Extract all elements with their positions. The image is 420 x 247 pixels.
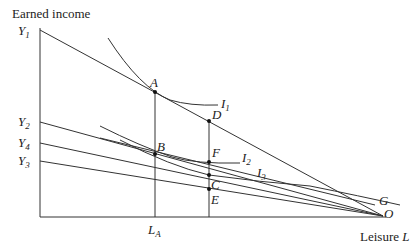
tick-la: LA (147, 222, 161, 239)
line-to-g (100, 138, 375, 205)
indifference-curve-i1 (108, 38, 218, 105)
label-i3: I3 (256, 165, 266, 182)
label-a: A (149, 75, 158, 90)
label-b: B (157, 139, 165, 154)
label-i1: I1 (220, 96, 230, 113)
tick-y3: Y3 (18, 153, 30, 170)
tick-y2: Y2 (18, 114, 30, 131)
label-e: E (210, 192, 219, 207)
tick-y1: Y1 (18, 23, 30, 40)
point-d (207, 119, 211, 123)
label-o: O (384, 206, 394, 221)
point-a (153, 90, 157, 94)
y-axis-title: Earned income (12, 6, 91, 21)
label-f: F (211, 145, 221, 160)
tick-y4: Y4 (18, 135, 30, 152)
label-c: C (211, 177, 220, 192)
point-f (207, 160, 211, 164)
label-i2: I2 (241, 150, 251, 167)
x-axis-title: Leisure L (360, 229, 409, 244)
income-leisure-diagram: Earned income Leisure L Y1 Y2 Y4 Y3 LA A… (0, 0, 420, 247)
